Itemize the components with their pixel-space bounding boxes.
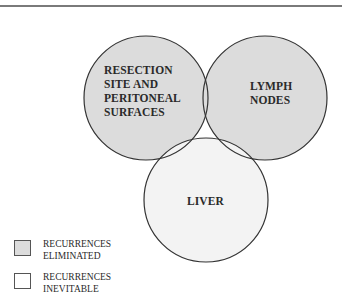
legend-label-line: ELIMINATED [43,250,111,262]
legend-label-line: RECURRENCES [43,238,111,250]
legend-label: RECURRENCES INEVITABLE [43,271,111,295]
resection-label-line: SITE AND [104,77,181,91]
legend-label: RECURRENCES ELIMINATED [43,238,111,262]
shaded-swatch-icon [14,240,31,256]
lymph-label-line: LYMPH [250,79,292,93]
empty-swatch-icon [14,273,31,289]
resection-site-label: RESECTION SITE AND PERITONEAL SURFACES [104,63,181,119]
legend-label-line: RECURRENCES [43,271,111,283]
liver-label: LIVER [187,194,224,208]
resection-label-line: SURFACES [104,105,181,119]
legend-label-line: INEVITABLE [43,283,111,295]
resection-label-line: PERITONEAL [104,91,181,105]
resection-label-line: RESECTION [104,63,181,77]
lymph-nodes-label: LYMPH NODES [250,79,292,107]
legend-item-eliminated: RECURRENCES ELIMINATED [14,238,111,262]
lymph-label-line: NODES [250,93,292,107]
legend-item-inevitable: RECURRENCES INEVITABLE [14,271,111,295]
